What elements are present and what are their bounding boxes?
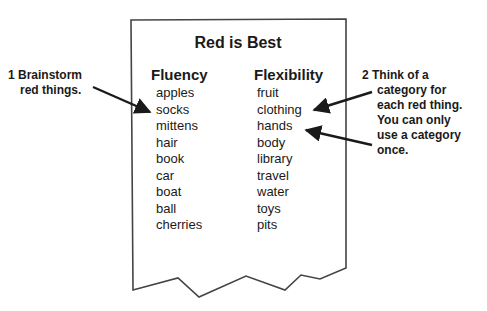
fluency-list: apples socks mittens hair book car boat … [156, 85, 202, 234]
list-item: apples [156, 85, 202, 102]
diagram-title: Red is Best [130, 34, 346, 52]
note-categorize: 2 Think of a category for each red thing… [362, 68, 462, 158]
list-item: water [257, 184, 302, 201]
list-item: cherries [156, 217, 202, 234]
list-item: car [156, 168, 202, 185]
list-item: travel [257, 168, 302, 185]
list-item: ball [156, 201, 202, 218]
list-item: socks [156, 102, 202, 119]
list-item: toys [257, 201, 302, 218]
list-item: body [257, 135, 302, 152]
list-item: hands [257, 118, 302, 135]
list-item: clothing [257, 102, 302, 119]
list-item: fruit [257, 85, 302, 102]
list-item: library [257, 151, 302, 168]
list-item: boat [156, 184, 202, 201]
note-brainstorm: 1 Brainstorm red things. [8, 68, 82, 98]
flexibility-list: fruit clothing hands body library travel… [257, 85, 302, 234]
flexibility-heading: Flexibility [254, 66, 323, 83]
list-item: mittens [156, 118, 202, 135]
fluency-heading: Fluency [151, 66, 208, 83]
list-item: hair [156, 135, 202, 152]
list-item: book [156, 151, 202, 168]
list-item: pits [257, 217, 302, 234]
